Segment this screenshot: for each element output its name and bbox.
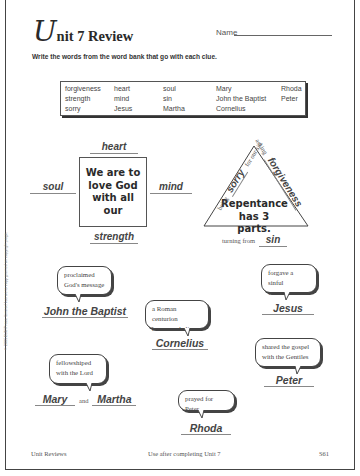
footer-left: Unit Reviews [31,450,67,457]
word-bank-item: Peter [281,95,298,102]
clue-text: fellowshiped [56,358,100,368]
instructions: Write the words from the word bank that … [32,53,217,60]
answer-martha: Martha [92,394,136,406]
bubble-tail [183,328,193,337]
clue-bubble-peter: shared the gospel with the Gentiles [255,338,321,367]
word-bank-item: sin [163,95,172,102]
answer-rhoda: Rhoda [181,423,231,435]
word-bank-item: Jesus [114,105,132,112]
answer-mary: Mary [35,394,75,406]
clue-text: with the Lord [56,368,100,378]
footer-center: Use after completing Unit 7 [148,450,221,457]
bubble-tail [74,294,84,303]
word-bank-item: heart [114,85,130,92]
answer-john-the-baptist: John the Baptist [42,306,128,318]
page-number: S61 [319,450,329,457]
turning-from-text: turning from [222,237,255,244]
clue-bubble-jesus: forgave a sinful woman [261,264,317,293]
answer-soul: soul [30,182,76,194]
word-bank: forgivenessheartsoulMaryRhodastrengthmin… [60,81,306,116]
clue-bubble-cornelius: a Roman centurion became a believer [145,300,209,329]
clue-text: with the Gentiles [262,352,314,362]
word-bank-item: Cornelius [216,105,246,112]
bottom-label: turning from sin [222,229,287,247]
clue-bubble-john: proclaimed God's message [57,266,112,295]
clue-text: proclaimed [64,270,105,280]
answer-sin: sin [259,235,287,247]
answer-heart: heart [90,142,138,154]
word-bank-item: soul [163,85,176,92]
word-bank-item: Rhoda [281,85,302,92]
word-bank-item: John the Baptist [216,95,266,102]
clue-text: shared the gospel [262,342,314,352]
and-text: and [79,397,88,404]
clue-text: God's message [64,280,105,290]
answer-mind: mind [150,182,192,194]
word-bank-item: strength [65,95,90,102]
love-god-box: We are to love God with all our [79,157,147,227]
bubble-tail [197,410,207,419]
clue-bubble-rhoda: prayed for Peter [178,390,235,411]
answer-jesus: Jesus [262,303,314,315]
title-rest: nit 7 Review [57,28,134,44]
page-title: Unit 7 Review [33,18,133,46]
word-bank-item: Mary [216,85,232,92]
title-initial: U [33,15,57,48]
bubble-tail [283,292,293,301]
word-bank-item: sorry [65,105,81,112]
answer-peter: Peter [264,375,314,387]
clue-text: became a believer [152,324,202,334]
clue-text: a Roman centurion [152,304,202,324]
clue-bubble-mary-martha: fellowshiped with the Lord [49,354,107,384]
word-bank-item: Martha [163,105,185,112]
copyright-note: © 2005 BJU Press. Limited license to cop… [4,232,8,350]
word-bank-item: forgiveness [65,85,101,92]
name-field-line[interactable] [234,35,332,36]
answer-strength: strength [90,232,138,244]
answer-mary-martha: Mary and Martha [35,389,136,407]
answer-cornelius: Cornelius [152,338,208,350]
clue-text: forgave a sinful [268,268,310,288]
word-bank-item: mind [114,95,129,102]
